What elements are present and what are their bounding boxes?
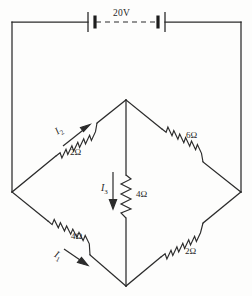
current-subscript-i3: 3 (104, 188, 108, 196)
current-arrow-i3 (109, 172, 116, 209)
resistor-label-bottom-left: 4Ω (71, 232, 82, 241)
resistor-label-top-right: 6Ω (186, 131, 197, 140)
wire-upper-right-upper-seg (126, 100, 162, 129)
resistor-bottom-right-2ohm (161, 223, 203, 259)
resistor-label-middle: 4Ω (136, 190, 147, 199)
wire-lower-left-lower-seg (90, 255, 126, 286)
resistor-label-bottom-right: 2Ω (185, 247, 196, 256)
resistor-label-top-left: 2Ω (70, 148, 81, 157)
wire-lower-right-upper-seg (203, 192, 241, 223)
wire-upper-right-lower-seg (203, 162, 241, 192)
wire-lower-right-lower-seg (126, 257, 161, 286)
wire-lower-left-upper-seg (12, 192, 48, 221)
current-arrow-i1 (64, 249, 88, 266)
circuit-schematic-svg (0, 0, 252, 296)
battery-voltage-label: 20V (113, 9, 130, 19)
current-label-i3: I3 (101, 183, 108, 196)
circuit-diagram: 20V 2Ω 6Ω 4Ω 4Ω 2Ω I2 I3 I1 (0, 0, 252, 296)
wire-upper-left-lower-seg (12, 156, 56, 192)
resistor-bottom-left-4ohm (48, 220, 90, 256)
resistor-middle-4ohm (121, 175, 131, 218)
wire-upper-left-upper-seg (97, 100, 126, 123)
